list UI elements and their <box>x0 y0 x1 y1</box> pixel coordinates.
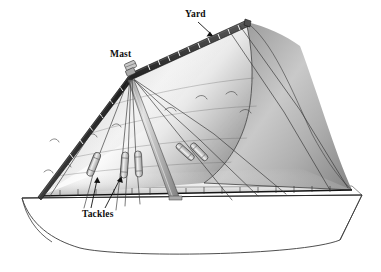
ship-rig-illustration <box>0 0 381 272</box>
figure-root: Yard Mast Tackles <box>0 0 381 272</box>
label-tackles: Tackles <box>82 210 114 220</box>
stern-corner-line <box>352 186 362 195</box>
label-mast: Mast <box>110 50 131 60</box>
hull-group <box>22 186 362 254</box>
tackle-block <box>134 151 142 177</box>
hull-body <box>22 195 362 254</box>
label-yard: Yard <box>185 10 206 20</box>
yard-leader-arrowhead <box>207 31 214 36</box>
tackle-block <box>120 152 129 178</box>
mast-heel <box>169 196 182 200</box>
